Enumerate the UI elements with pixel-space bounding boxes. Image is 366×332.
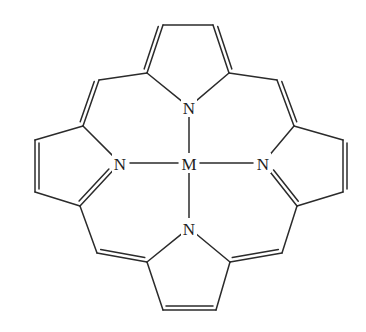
- single-bond: [196, 234, 230, 262]
- double-bond-inner: [232, 250, 278, 258]
- single-bond: [294, 126, 343, 140]
- double-bond-inner: [101, 250, 145, 258]
- double-bond-outer: [230, 253, 282, 262]
- single-bond: [147, 234, 182, 262]
- structure-svg: M N N N N: [0, 0, 366, 332]
- double-bond-outer: [213, 25, 229, 73]
- single-bond: [196, 73, 229, 101]
- single-bond: [282, 206, 297, 253]
- double-bond-outer: [269, 170, 297, 206]
- atoms: M N N N N: [112, 97, 271, 239]
- single-bond: [297, 192, 343, 206]
- double-bond-inner: [282, 81, 297, 121]
- double-bond-inner: [79, 169, 109, 201]
- single-bond: [35, 126, 83, 140]
- single-bond: [83, 126, 114, 157]
- double-bond-inner: [274, 170, 299, 201]
- nitrogen-top-label: N: [183, 99, 195, 118]
- nitrogen-left-label: N: [114, 155, 126, 174]
- double-bond-outer: [97, 253, 147, 262]
- atom-nitrogen-top: N: [181, 97, 197, 118]
- atom-metal: M: [180, 153, 198, 174]
- single-bond: [216, 262, 230, 310]
- metal-label: M: [181, 155, 196, 174]
- porphyrin-diagram: M N N N N: [0, 0, 366, 332]
- nitrogen-right-label: N: [257, 155, 269, 174]
- nitrogen-bottom-label: N: [183, 220, 195, 239]
- atom-nitrogen-bottom: N: [181, 218, 197, 239]
- double-bond-outer: [83, 80, 99, 126]
- single-bond: [147, 262, 163, 310]
- atom-nitrogen-right: N: [255, 153, 271, 174]
- single-bond: [80, 206, 97, 253]
- single-bond: [147, 73, 182, 101]
- single-bond: [99, 73, 147, 80]
- atom-nitrogen-left: N: [112, 153, 128, 174]
- double-bond-outer: [147, 25, 163, 73]
- single-bond: [229, 73, 277, 80]
- double-bond-outer: [277, 80, 294, 126]
- single-bond: [269, 126, 294, 156]
- single-bond: [35, 192, 80, 206]
- double-bond-outer: [80, 170, 114, 206]
